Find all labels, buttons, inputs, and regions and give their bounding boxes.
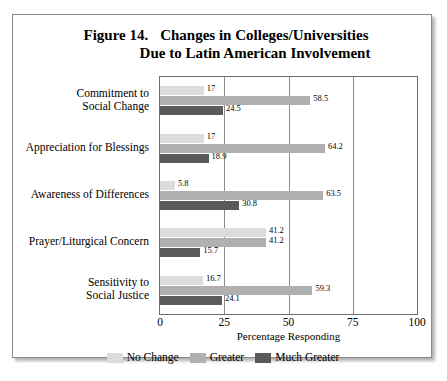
bar-no-change	[160, 181, 175, 190]
legend-label: No Change	[127, 351, 179, 364]
bar-value-label: 24.5	[223, 104, 241, 113]
bar-value-label: 18.9	[209, 152, 227, 161]
x-tick-label-0: 0	[157, 316, 163, 329]
bar-much-greater	[160, 201, 239, 210]
bar-value-label: 15.7	[200, 246, 218, 255]
bar-group: 1758.524.5	[160, 77, 417, 124]
category-label-line: Prayer/Liturgical Concern	[13, 235, 149, 248]
bar-value-label: 64.2	[325, 142, 343, 151]
category-label-line: Commitment to	[13, 87, 149, 100]
category-label-line: Social Justice	[13, 289, 149, 302]
bar-no-change	[160, 86, 204, 95]
x-axis-tick-labels: 0255075100	[159, 316, 418, 330]
bar-value-label: 63.5	[323, 189, 341, 198]
bar-value-label: 17	[204, 132, 216, 141]
figure-title: Figure 14.Changes in Colleges/Universiti…	[13, 26, 433, 62]
bar-value-label: 16.7	[203, 274, 221, 283]
bar-row: 41.2	[160, 238, 417, 247]
category-label: Awareness of Differences	[13, 188, 149, 201]
category-label: Sensitivity toSocial Justice	[13, 276, 149, 302]
legend-label: Greater	[210, 351, 244, 364]
bar-much-greater	[160, 248, 200, 257]
legend-label: Much Greater	[275, 351, 339, 364]
x-tick-label-50: 50	[283, 316, 295, 329]
bar-value-label: 59.3	[312, 284, 330, 293]
bar-group: 1764.218.9	[160, 124, 417, 171]
bar-row: 15.7	[160, 248, 417, 257]
bar-value-label: 30.8	[239, 199, 257, 208]
legend-swatch	[255, 353, 271, 363]
category-axis-labels: Commitment toSocial ChangeAppreciation f…	[13, 76, 154, 313]
bar-group: 41.241.215.7	[160, 219, 417, 266]
category-label: Prayer/Liturgical Concern	[13, 235, 149, 248]
legend-item-no-change[interactable]: No Change	[107, 351, 179, 364]
bar-much-greater	[160, 154, 209, 163]
bar-no-change	[160, 228, 266, 237]
category-label-line: Sensitivity to	[13, 276, 149, 289]
category-label-line: Appreciation for Blessings	[13, 141, 149, 154]
bar-much-greater	[160, 296, 222, 305]
bar-much-greater	[160, 106, 223, 115]
x-axis-title: Percentage Responding	[159, 330, 418, 343]
bar-row: 64.2	[160, 144, 417, 153]
chart-plot-area: 1758.524.51764.218.95.863.530.841.241.21…	[159, 76, 418, 315]
bar-value-label: 41.2	[266, 236, 284, 245]
x-tick-label-100: 100	[408, 316, 425, 329]
bar-row: 17	[160, 134, 417, 143]
bar-row: 63.5	[160, 191, 417, 200]
legend-item-much-greater[interactable]: Much Greater	[255, 351, 339, 364]
bar-row: 5.8	[160, 181, 417, 190]
category-label: Commitment toSocial Change	[13, 87, 149, 113]
category-label-line: Social Change	[13, 100, 149, 113]
bar-row: 16.7	[160, 276, 417, 285]
legend-swatch	[107, 353, 123, 363]
bar-value-label: 5.8	[175, 179, 189, 188]
bar-value-label: 41.2	[266, 226, 284, 235]
x-tick-label-25: 25	[219, 316, 231, 329]
bar-group: 16.759.324.1	[160, 267, 417, 314]
figure-number: Figure 14.	[83, 27, 148, 43]
category-label-line: Awareness of Differences	[13, 188, 149, 201]
bar-row: 24.1	[160, 296, 417, 305]
bar-value-label: 24.1	[222, 294, 240, 303]
category-label: Appreciation for Blessings	[13, 141, 149, 154]
bar-value-label: 17	[204, 84, 216, 93]
bar-no-change	[160, 134, 204, 143]
legend-item-greater[interactable]: Greater	[190, 351, 244, 364]
chart-legend: No ChangeGreaterMuch Greater	[13, 351, 433, 364]
bar-row: 18.9	[160, 154, 417, 163]
figure-title-line-1: Figure 14.Changes in Colleges/Universiti…	[13, 26, 433, 44]
figure-card: Figure 14.Changes in Colleges/Universiti…	[12, 14, 432, 358]
bar-row: 24.5	[160, 106, 417, 115]
figure-title-text-1: Changes in Colleges/Universities	[160, 27, 368, 43]
bar-row: 30.8	[160, 201, 417, 210]
legend-swatch	[190, 353, 206, 363]
bar-row: 41.2	[160, 228, 417, 237]
x-tick-label-75: 75	[347, 316, 359, 329]
bar-row: 59.3	[160, 286, 417, 295]
bar-row: 17	[160, 86, 417, 95]
bar-group: 5.863.530.8	[160, 172, 417, 219]
bar-no-change	[160, 276, 203, 285]
bar-row: 58.5	[160, 96, 417, 105]
figure-title-line-2: Due to Latin American Involvement	[13, 44, 433, 62]
bar-value-label: 58.5	[310, 94, 328, 103]
bar-greater	[160, 144, 325, 153]
